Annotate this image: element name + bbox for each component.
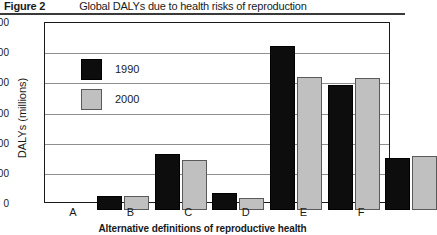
y-axis-tick-labels: 0100200300400500600 [0, 16, 405, 235]
legend-item-1990[interactable]: 1990 [81, 54, 196, 84]
chart-legend: 19902000 [81, 54, 196, 114]
figure-title: Global DALYs due to health risks of repr… [79, 0, 306, 12]
legend-swatch-1990 [81, 59, 102, 80]
x-tick-label-A: A [47, 206, 99, 218]
legend-swatch-2000 [81, 89, 102, 110]
x-axis-tick-labels: ABCDEF [44, 206, 390, 222]
y-tick-label-100: 100 [0, 167, 9, 178]
bar-F-2000[interactable] [412, 156, 437, 210]
bar-chart: 0100200300400500600 DALYs (millions) 199… [0, 16, 405, 235]
legend-label-2000: 2000 [115, 93, 139, 105]
figure-label: Figure 2 [4, 0, 45, 12]
x-tick-label-E: E [278, 206, 330, 218]
x-axis-title: Alternative definitions of reproductive … [0, 223, 405, 234]
y-tick-label-500: 500 [0, 47, 9, 58]
y-tick-label-400: 400 [0, 77, 9, 88]
x-tick-label-B: B [105, 206, 157, 218]
legend-label-1990: 1990 [115, 63, 139, 75]
x-tick-label-F: F [335, 206, 387, 218]
y-tick-label-200: 200 [0, 137, 9, 148]
x-tick-label-D: D [220, 206, 272, 218]
header-divider [0, 13, 405, 15]
y-tick-label-300: 300 [0, 107, 9, 118]
x-tick-label-C: C [162, 206, 214, 218]
legend-item-2000[interactable]: 2000 [81, 84, 196, 114]
y-axis-title: DALYs (millions) [16, 48, 28, 188]
y-tick-label-0: 0 [0, 198, 9, 209]
y-tick-label-600: 600 [0, 17, 9, 28]
